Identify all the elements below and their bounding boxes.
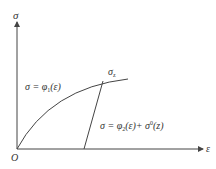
loading-rhs: (ε) [50,81,61,92]
unloading-lhs: σ = φ [100,120,122,131]
origin-label: O [11,153,18,163]
y-axis-label: σ [13,10,18,21]
unloading-mid: (ε)+ σ [125,120,150,131]
x-axis-label: ε [206,144,210,154]
unloading-line-label: σ = φ2(ε)+ σ0(z) [100,120,164,132]
loading-lhs: σ = φ [25,81,47,92]
unloading-line [84,81,103,149]
unloading-rhs: (z) [153,120,164,131]
peak-sub: z [113,72,116,78]
loading-curve-label: σ = φ1(ε) [25,82,61,93]
peak-stress-label: σz [108,67,116,78]
